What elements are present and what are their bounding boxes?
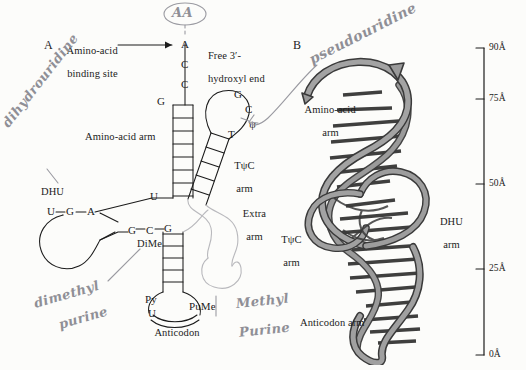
methylpurine-line1: Methyl (235, 291, 289, 311)
dihydrouridine-leader (47, 169, 58, 183)
dimethyl-line1: dimethyl (32, 278, 101, 311)
pseudouridine-arrow (249, 65, 317, 125)
methylpurine-line2: Purine (238, 319, 290, 339)
figure-page: A Amino-acid binding site Free 3′- hydro… (0, 0, 526, 370)
dimethyl-leader (108, 249, 140, 281)
dimethyl-line2: purine (57, 304, 109, 331)
psi-pointer (241, 118, 249, 121)
pseudouridine-arrowhead (249, 115, 258, 123)
handwriting-aa: AA (172, 5, 193, 20)
handwriting-methyl-purine: Methyl Purine (214, 278, 294, 357)
